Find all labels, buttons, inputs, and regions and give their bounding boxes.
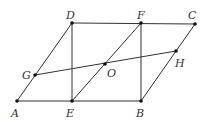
segments — [17, 23, 195, 101]
label-D: D — [65, 9, 75, 22]
segment-BC — [141, 24, 195, 101]
label-G: G — [22, 69, 31, 82]
point-E — [70, 99, 74, 103]
label-F: F — [136, 9, 145, 22]
label-C: C — [188, 9, 197, 22]
label-H: H — [174, 57, 185, 70]
point-H — [174, 49, 178, 53]
label-E: E — [65, 107, 74, 120]
point-C — [193, 22, 197, 26]
segment-EF — [72, 23, 141, 101]
point-A — [15, 99, 19, 103]
point-B — [139, 99, 143, 103]
geometry-diagram: AEBDFCGOH — [0, 0, 207, 129]
label-O: O — [107, 67, 116, 80]
segment-CD — [72, 23, 195, 24]
point-O — [103, 62, 107, 66]
label-A: A — [10, 107, 19, 120]
point-G — [33, 73, 37, 77]
segment-DA — [17, 23, 72, 101]
label-B: B — [135, 107, 144, 120]
